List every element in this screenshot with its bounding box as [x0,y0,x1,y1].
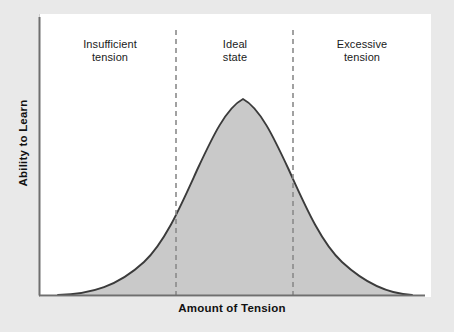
region-label-excessive: Excessive tension [300,38,424,64]
bell-curve-area [58,99,412,295]
y-axis-label: Ability to Learn [17,100,29,187]
x-axis-label: Amount of Tension [39,302,425,314]
chart-figure: Insufficient tension Ideal state Excessi… [0,0,454,332]
y-axis-label-wrapper: Ability to Learn [13,73,31,213]
region-label-ideal: Ideal state [182,38,288,64]
region-label-insufficient: Insufficient tension [48,38,172,64]
